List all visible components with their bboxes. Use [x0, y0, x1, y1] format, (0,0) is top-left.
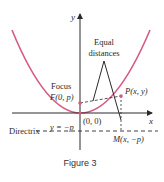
figure-caption: Figure 3 [63, 158, 96, 168]
focus-point [78, 101, 82, 105]
parabola-curve [12, 30, 150, 113]
point-p-label: P(x, y) [124, 86, 148, 96]
focus-point-label: F(0, p) [49, 92, 74, 102]
point-p [119, 94, 123, 98]
origin-point [79, 112, 82, 115]
equal-distances-label: Equal [94, 37, 114, 47]
origin-label: (0, 0) [83, 116, 102, 126]
x-axis-label: x [148, 116, 153, 126]
parabola-diagram: y x Equal distances Focus F(0, p) P(x, y… [0, 0, 164, 182]
directrix-equation: y = −p [49, 122, 74, 132]
y-axis-label: y [70, 12, 75, 22]
point-m-label: M(x, −p) [112, 134, 144, 144]
focus-label: Focus [51, 81, 71, 91]
equal-distances-label-2: distances [88, 48, 119, 58]
directrix-label: Directrix [9, 126, 40, 136]
